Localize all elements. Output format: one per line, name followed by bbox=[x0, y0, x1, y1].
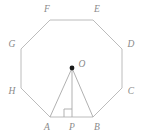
vertex-label-G: G bbox=[9, 39, 16, 49]
geometry-figure: F E G D H C O A P B bbox=[0, 0, 143, 140]
vertex-label-F: F bbox=[43, 4, 50, 14]
right-angle-marker-at-P bbox=[64, 109, 72, 117]
segment-OA bbox=[50, 68, 72, 117]
point-label-P: P bbox=[68, 122, 75, 132]
vertex-label-B: B bbox=[94, 122, 100, 132]
octagon-diagram-svg: F E G D H C O A P B bbox=[0, 0, 143, 140]
segment-OB bbox=[72, 68, 93, 117]
vertex-label-C: C bbox=[128, 86, 135, 96]
vertex-label-D: D bbox=[127, 39, 135, 49]
vertex-label-E: E bbox=[93, 4, 100, 14]
center-point-O-dot bbox=[70, 66, 75, 71]
vertex-label-A: A bbox=[43, 122, 50, 132]
point-label-O: O bbox=[79, 59, 86, 69]
vertex-label-H: H bbox=[8, 86, 17, 96]
